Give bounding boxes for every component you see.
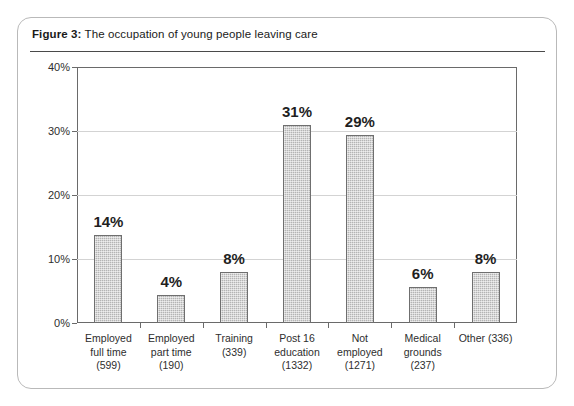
- x-axis-category-line: part time: [138, 346, 204, 360]
- x-axis-tick-mark: [454, 323, 455, 328]
- y-axis-tick-label: 0%: [54, 317, 70, 329]
- x-axis-category-line: (339): [201, 346, 267, 360]
- bar[interactable]: [220, 272, 248, 323]
- x-axis-tick-mark: [391, 323, 392, 328]
- x-axis-category-line: employed: [327, 346, 393, 360]
- x-axis-category-line: Other (336): [453, 332, 519, 346]
- x-axis-tick-mark: [328, 323, 329, 328]
- y-axis-tick-mark: [72, 323, 77, 324]
- x-axis-tick-mark: [140, 323, 141, 328]
- figure-caption-text: The occupation of young people leaving c…: [85, 28, 318, 40]
- bar[interactable]: [409, 287, 437, 323]
- bar-value-label: 6%: [412, 265, 434, 282]
- x-axis-category-line: (190): [138, 359, 204, 373]
- x-axis-category-line: full time: [75, 346, 141, 360]
- y-axis-tick-label: 20%: [48, 189, 70, 201]
- figure-caption: Figure 3: The occupation of young people…: [32, 28, 318, 40]
- x-axis-category-line: (237): [390, 359, 456, 373]
- x-axis-category-line: grounds: [390, 346, 456, 360]
- x-axis-category-label: Employedfull time(599): [75, 332, 141, 373]
- bar-group: 8%: [454, 67, 517, 323]
- bar-value-label: 29%: [345, 113, 375, 130]
- y-axis-tick-label: 40%: [48, 61, 70, 73]
- x-axis-category-line: Employed: [75, 332, 141, 346]
- bar-value-label: 4%: [160, 273, 182, 290]
- y-axis-tick-label: 30%: [48, 125, 70, 137]
- bar-group: 4%: [140, 67, 203, 323]
- figure-card: Figure 3: The occupation of young people…: [17, 17, 557, 389]
- x-axis-category-line: (1332): [264, 359, 330, 373]
- x-axis-category-line: Post 16: [264, 332, 330, 346]
- bar-chart: 0%10%20%30%40% 14%4%8%31%29%6%8% Employe…: [77, 67, 517, 323]
- x-axis-category-label: Notemployed(1271): [327, 332, 393, 373]
- x-axis-category-line: Training: [201, 332, 267, 346]
- x-axis-category-line: education: [264, 346, 330, 360]
- bar[interactable]: [346, 135, 374, 323]
- x-axis-category-line: Medical: [390, 332, 456, 346]
- bar-value-label: 14%: [93, 213, 123, 230]
- bar-group: 6%: [391, 67, 454, 323]
- bar-value-label: 31%: [282, 103, 312, 120]
- bar-value-label: 8%: [223, 250, 245, 267]
- x-axis-category-label: Employedpart time(190): [138, 332, 204, 373]
- x-axis-category-line: Employed: [138, 332, 204, 346]
- x-axis-tick-mark: [266, 323, 267, 328]
- bar[interactable]: [472, 272, 500, 323]
- x-axis-tick-mark: [203, 323, 204, 328]
- figure-number: Figure 3:: [32, 28, 81, 40]
- bar-value-label: 8%: [475, 250, 497, 267]
- y-axis-tick-label: 10%: [48, 253, 70, 265]
- x-axis-category-line: (1271): [327, 359, 393, 373]
- x-axis-category-label: Post 16education(1332): [264, 332, 330, 373]
- bar[interactable]: [283, 125, 311, 323]
- bar-group: 29%: [328, 67, 391, 323]
- bar-group: 8%: [203, 67, 266, 323]
- bar[interactable]: [94, 235, 122, 323]
- x-axis-category-label: Training(339): [201, 332, 267, 359]
- bar-group: 14%: [77, 67, 140, 323]
- x-axis-category-label: Other (336): [453, 332, 519, 346]
- bar[interactable]: [157, 295, 185, 323]
- x-axis-category-line: (599): [75, 359, 141, 373]
- x-axis-category-label: Medicalgrounds(237): [390, 332, 456, 373]
- bar-group: 31%: [266, 67, 329, 323]
- x-axis-category-line: Not: [327, 332, 393, 346]
- caption-divider: [30, 51, 545, 52]
